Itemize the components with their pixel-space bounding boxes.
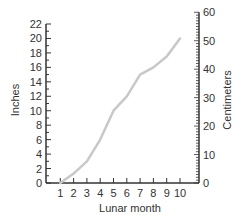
growth-line: [60, 39, 180, 184]
y-tick-label: 18: [30, 47, 42, 59]
x-tick-label: 2: [71, 187, 77, 199]
fetal-growth-line-chart: 0246810121416182022 0102030405060 123456…: [0, 0, 239, 222]
y-right-tick-label: 20: [203, 120, 215, 132]
y-tick-label: 16: [30, 61, 42, 73]
x-axis-lunar-month: 12345678910: [46, 178, 199, 199]
y-tick-label: 2: [36, 163, 42, 175]
y-right-tick-label: 50: [203, 35, 215, 47]
y-right-tick-label: 60: [203, 6, 215, 18]
x-tick-label: 7: [137, 187, 143, 199]
y-axis-title-inches: Inches: [9, 83, 21, 116]
x-tick-label: 8: [150, 187, 156, 199]
x-tick-label: 6: [124, 187, 130, 199]
y-tick-label: 8: [36, 119, 42, 131]
x-axis-title: Lunar month: [99, 202, 161, 214]
y-right-tick-label: 0: [203, 177, 209, 189]
y-axis-title-centimeters: Centimeters: [221, 70, 233, 130]
y-tick-label: 0: [36, 177, 42, 189]
y-right-tick-label: 10: [203, 149, 215, 161]
x-tick-label: 9: [164, 187, 170, 199]
x-tick-label: 10: [174, 187, 186, 199]
y-tick-label: 4: [36, 148, 42, 160]
y-tick-label: 12: [30, 90, 42, 102]
y-tick-label: 20: [30, 32, 42, 44]
y-right-tick-label: 40: [203, 63, 215, 75]
left-y-axis-inches: 0246810121416182022: [30, 18, 51, 189]
x-tick-label: 3: [84, 187, 90, 199]
y-tick-label: 10: [30, 105, 42, 117]
y-tick-label: 14: [30, 76, 42, 88]
y-tick-label: 22: [30, 18, 42, 30]
right-y-axis-centimeters: 0102030405060: [194, 6, 215, 189]
x-tick-label: 5: [110, 187, 116, 199]
x-tick-label: 4: [97, 187, 103, 199]
x-tick-label: 1: [57, 187, 63, 199]
y-tick-label: 6: [36, 134, 42, 146]
y-right-tick-label: 30: [203, 92, 215, 104]
